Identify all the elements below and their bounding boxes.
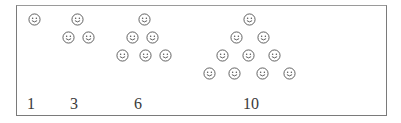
smiley-face-icon (256, 67, 269, 80)
smiley-face-icon (230, 31, 243, 44)
smiley-face-icon (28, 13, 41, 26)
smiley-face-icon (283, 67, 296, 80)
smiley-face-icon (216, 49, 229, 62)
smiley-face-icon (71, 13, 84, 26)
smiley-face-icon (159, 49, 172, 62)
smiley-face-icon (62, 31, 75, 44)
count-label: 1 (27, 96, 35, 112)
smiley-face-icon (146, 31, 159, 44)
count-label: 6 (134, 96, 142, 112)
smiley-face-icon (126, 31, 139, 44)
smiley-face-icon (242, 49, 255, 62)
count-label: 3 (70, 96, 78, 112)
smiley-face-icon (228, 67, 241, 80)
count-label: 10 (243, 96, 259, 112)
smiley-face-icon (138, 13, 151, 26)
smiley-face-icon (82, 31, 95, 44)
smiley-face-icon (139, 49, 152, 62)
smiley-face-icon (116, 49, 129, 62)
smiley-face-icon (203, 67, 216, 80)
smiley-face-icon (243, 13, 256, 26)
smiley-face-icon (268, 49, 281, 62)
smiley-face-icon (257, 31, 270, 44)
